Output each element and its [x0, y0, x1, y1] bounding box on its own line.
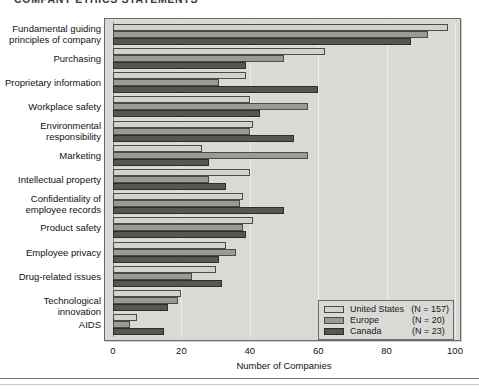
bar-group: [113, 167, 455, 191]
legend-sample-size: (N = 157): [411, 304, 449, 314]
legend-label: Canada: [350, 326, 412, 336]
y-axis-category-labels: Fundamental guiding principles of compan…: [0, 22, 101, 337]
bar-canada: [113, 231, 246, 238]
bar-europe: [113, 152, 308, 159]
bar-europe: [113, 31, 428, 38]
bar-canada: [113, 86, 318, 93]
bar-group: [113, 22, 455, 46]
y-axis-label: Confidentiality of employee records: [1, 193, 101, 215]
chart-legend: United States(N = 157)Europe(N = 20)Cana…: [318, 300, 454, 340]
y-axis-label: Drug-related issues: [1, 271, 101, 282]
bar-canada: [113, 183, 226, 190]
y-axis-label: Technological innovation: [1, 295, 101, 317]
legend-swatch-europe: [324, 317, 344, 324]
bar-us: [113, 121, 253, 128]
bar-canada: [113, 38, 411, 45]
bar-us: [113, 217, 253, 224]
bar-group: [113, 95, 455, 119]
bar-europe: [113, 224, 243, 231]
bar-europe: [113, 79, 219, 86]
bar-canada: [113, 110, 260, 117]
x-axis-tick-20: 20: [176, 345, 187, 356]
bar-canada: [113, 304, 168, 311]
bar-europe: [113, 200, 240, 207]
bar-group: [113, 46, 455, 70]
bar-europe: [113, 176, 209, 183]
legend-item[interactable]: United States(N = 157): [324, 304, 449, 314]
x-axis-tick-labels: 020406080100: [0, 345, 479, 359]
y-axis-label: Workplace safety: [1, 101, 101, 112]
bar-europe: [113, 103, 308, 110]
bar-canada: [113, 62, 246, 69]
bar-canada: [113, 256, 219, 263]
y-axis-label: Marketing: [1, 150, 101, 161]
bar-group: [113, 143, 455, 167]
legend-swatch-us: [324, 306, 344, 313]
bar-us: [113, 96, 250, 103]
bar-us: [113, 193, 243, 200]
legend-item[interactable]: Europe(N = 20): [324, 315, 449, 325]
bar-us: [113, 48, 325, 55]
bar-europe: [113, 321, 130, 328]
bar-group: [113, 240, 455, 264]
bar-europe: [113, 273, 192, 280]
figure-title: COMPANY ETHICS STATEMENTS: [14, 0, 198, 5]
legend-sample-size: (N = 20): [412, 315, 445, 325]
bar-group: [113, 192, 455, 216]
footer-rule-secondary: [0, 384, 479, 385]
y-axis-label: Fundamental guiding principles of compan…: [1, 23, 101, 45]
x-axis-tick-60: 60: [313, 345, 324, 356]
x-axis-title: Number of Companies: [113, 360, 455, 371]
bar-us: [113, 314, 137, 321]
x-axis-tick-0: 0: [110, 345, 115, 356]
bar-us: [113, 145, 202, 152]
bar-group: [113, 216, 455, 240]
x-axis-tick-40: 40: [245, 345, 256, 356]
bar-us: [113, 290, 181, 297]
bar-canada: [113, 159, 209, 166]
legend-item[interactable]: Canada(N = 23): [324, 326, 449, 336]
legend-label: Europe: [350, 315, 412, 325]
bar-group: [113, 119, 455, 143]
y-axis-label: Product safety: [1, 222, 101, 233]
y-axis-label: Employee privacy: [1, 247, 101, 258]
bar-canada: [113, 328, 164, 335]
plot-area: [113, 22, 455, 337]
bar-us: [113, 169, 250, 176]
bar-europe: [113, 297, 178, 304]
bar-us: [113, 242, 226, 249]
legend-sample-size: (N = 23): [412, 326, 445, 336]
legend-swatch-canada: [324, 328, 344, 335]
y-axis-label: Purchasing: [1, 53, 101, 64]
y-axis-label: Intellectual property: [1, 174, 101, 185]
bar-us: [113, 24, 448, 31]
x-axis-tick-80: 80: [381, 345, 392, 356]
y-axis-label: Environmental responsibility: [1, 120, 101, 142]
bar-group: [113, 264, 455, 288]
bar-europe: [113, 55, 284, 62]
footer-rule: [0, 378, 479, 379]
bar-us: [113, 266, 216, 273]
bar-canada: [113, 207, 284, 214]
legend-label: United States: [350, 304, 411, 314]
x-axis-tick-100: 100: [447, 345, 463, 356]
bar-europe: [113, 249, 236, 256]
bar-europe: [113, 128, 250, 135]
y-axis-label: Proprietary information: [1, 77, 101, 88]
gridline-100: [455, 22, 456, 337]
bar-canada: [113, 280, 222, 287]
bar-us: [113, 72, 246, 79]
bar-canada: [113, 135, 294, 142]
y-axis-label: AIDS: [1, 319, 101, 330]
bar-group: [113, 70, 455, 94]
